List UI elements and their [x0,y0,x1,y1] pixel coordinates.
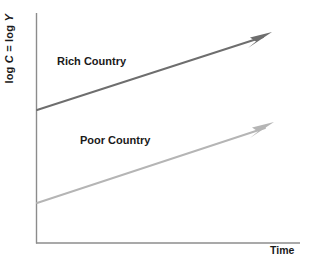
plot-area [0,0,317,261]
series-poor-country [37,122,274,203]
series-rich-country [37,32,272,110]
poor-country-line [37,128,265,203]
y-axis-label: log C = log Y [4,14,15,84]
series-label-poor-country: Poor Country [80,135,150,146]
series-label-rich-country: Rich Country [57,56,126,67]
poor-country-arrowhead [250,122,274,138]
x-axis-label: Time [270,245,294,256]
rich-country-line [37,37,263,110]
chart-figure: log C = log Y Time Rich Country Poor Cou… [0,0,317,261]
